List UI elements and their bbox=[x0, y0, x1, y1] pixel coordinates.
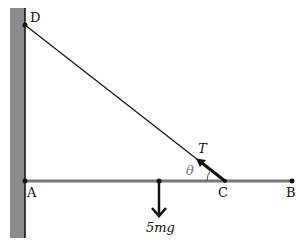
point-d bbox=[23, 23, 28, 28]
point-c bbox=[223, 179, 227, 183]
label-c: C bbox=[218, 185, 228, 200]
point-a bbox=[23, 179, 28, 184]
angle-arc bbox=[207, 170, 211, 181]
label-b: B bbox=[286, 185, 296, 200]
label-d: D bbox=[30, 10, 40, 25]
label-tension: T bbox=[198, 141, 208, 156]
point-b bbox=[290, 179, 295, 184]
string-dc bbox=[25, 25, 225, 181]
label-weight: 5mg bbox=[146, 220, 175, 235]
label-angle: θ bbox=[186, 163, 194, 178]
wall bbox=[10, 8, 25, 238]
statics-diagram: D A C B T θ 5mg bbox=[0, 0, 301, 242]
tension-arrow bbox=[200, 162, 225, 182]
label-a: A bbox=[26, 185, 37, 200]
point-center bbox=[157, 179, 162, 184]
